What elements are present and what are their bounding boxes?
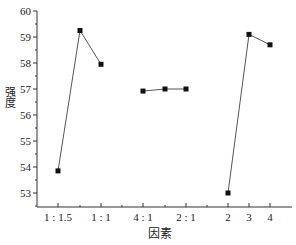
- y-tick-label: 57: [20, 83, 32, 95]
- data-point-marker: [184, 87, 189, 92]
- data-point-marker: [163, 87, 168, 92]
- x-axis-title: 因素: [148, 224, 172, 242]
- series-line-1: [58, 31, 101, 171]
- y-tick-label: 58: [20, 57, 32, 69]
- series-line-3: [228, 34, 270, 193]
- line-chart: 53545556575859601 : 1.51 : 14 : 12 : 123…: [0, 0, 296, 245]
- x-tick-label: 4: [267, 211, 273, 223]
- data-point-marker: [99, 62, 104, 67]
- x-tick-label: 3: [246, 211, 252, 223]
- data-point-marker: [141, 89, 146, 94]
- data-point-marker: [268, 42, 273, 47]
- data-point-marker: [226, 191, 231, 196]
- chart-canvas: 53545556575859601 : 1.51 : 14 : 12 : 123…: [0, 0, 296, 245]
- y-tick-label: 56: [20, 109, 32, 121]
- x-tick-label: 1 : 1: [91, 211, 111, 223]
- data-point-marker: [247, 32, 252, 37]
- data-point-marker: [56, 168, 61, 173]
- y-tick-label: 60: [20, 5, 32, 17]
- y-tick-label: 59: [20, 31, 32, 43]
- y-tick-label: 55: [20, 135, 32, 147]
- x-tick-label: 2 : 1: [176, 211, 196, 223]
- x-tick-label: 4 : 1: [133, 211, 153, 223]
- data-point-marker: [78, 28, 83, 33]
- y-tick-label: 54: [20, 161, 32, 173]
- y-tick-label: 53: [20, 187, 32, 199]
- y-axis-title: 强度: [2, 86, 16, 108]
- x-tick-label: 2: [225, 211, 231, 223]
- x-tick-label: 1 : 1.5: [44, 211, 72, 223]
